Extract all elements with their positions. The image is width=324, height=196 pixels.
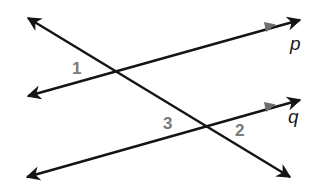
angle-label-3: 3 [163, 114, 172, 133]
transversal-line [28, 18, 290, 177]
parallel-lines-diagram: p q 1 3 2 [0, 0, 324, 196]
line-p [28, 20, 300, 96]
line-label-q: q [288, 106, 299, 127]
angle-label-2: 2 [235, 121, 244, 140]
angle-label-1: 1 [72, 59, 81, 78]
line-q [27, 100, 300, 177]
diagram-canvas: p q 1 3 2 [0, 0, 324, 196]
line-label-p: p [289, 33, 301, 54]
